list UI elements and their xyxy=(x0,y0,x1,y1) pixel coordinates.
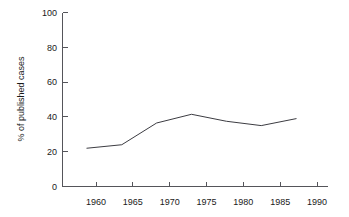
axis-spines xyxy=(63,13,328,187)
series-line-published-cases xyxy=(87,114,296,148)
x-tick-label-1980: 1980 xyxy=(233,197,253,207)
y-tick-label-40: 40 xyxy=(47,112,57,122)
y-axis-title: % of published cases xyxy=(16,56,26,142)
line-chart: 0 20 40 60 80 100 1960 1965 1970 1975 19… xyxy=(0,0,349,217)
y-tick-label-100: 100 xyxy=(42,8,57,18)
y-tick-label-60: 60 xyxy=(47,77,57,87)
x-tick-label-1965: 1965 xyxy=(123,197,143,207)
x-tick-label-1960: 1960 xyxy=(86,197,106,207)
chart-page: 0 20 40 60 80 100 1960 1965 1970 1975 19… xyxy=(0,0,349,217)
y-tick-label-0: 0 xyxy=(52,182,57,192)
y-tick-label-20: 20 xyxy=(47,147,57,157)
x-tick-label-1985: 1985 xyxy=(270,197,290,207)
x-tick-label-1975: 1975 xyxy=(196,197,216,207)
x-tick-label-1970: 1970 xyxy=(160,197,180,207)
x-tick-label-1990: 1990 xyxy=(307,197,327,207)
y-tick-label-80: 80 xyxy=(47,43,57,53)
